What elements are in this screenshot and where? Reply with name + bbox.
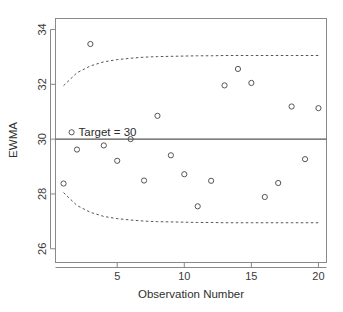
y-tick-label: 34 — [36, 23, 48, 35]
x-tick-label: 10 — [178, 270, 190, 282]
ewma-control-chart: 2628303234 5101520 Target = 30 Observati… — [0, 0, 343, 312]
chart-background — [0, 0, 343, 312]
y-tick-label: 26 — [36, 243, 48, 255]
annotation-group: Target = 30 — [69, 126, 136, 138]
x-tick-label: 20 — [312, 270, 324, 282]
x-tick-label: 5 — [114, 270, 120, 282]
chart-canvas: 2628303234 5101520 Target = 30 Observati… — [0, 0, 343, 312]
y-tick-label: 28 — [36, 188, 48, 200]
y-tick-label: 30 — [36, 133, 48, 145]
x-axis-title: Observation Number — [138, 288, 244, 300]
y-tick-label: 32 — [36, 78, 48, 90]
x-tick-label: 15 — [245, 270, 257, 282]
target-label: Target = 30 — [79, 126, 137, 138]
y-axis-title: EWMA — [7, 122, 19, 158]
